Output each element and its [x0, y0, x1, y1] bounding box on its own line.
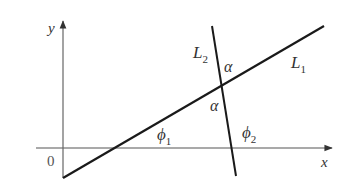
phi2-label: ϕ2	[242, 123, 256, 145]
line-angle-diagram: y x 0 L2 L1 α α ϕ1 ϕ2	[0, 0, 348, 182]
l1-label: L1	[290, 53, 306, 75]
x-axis-label: x	[320, 154, 328, 170]
alpha-top-label: α	[224, 58, 233, 75]
y-axis-label: y	[46, 20, 55, 36]
l2-label: L2	[192, 43, 208, 65]
alpha-bottom-label: α	[210, 97, 219, 114]
phi1-label: ϕ1	[157, 125, 171, 147]
origin-label: 0	[47, 153, 55, 169]
